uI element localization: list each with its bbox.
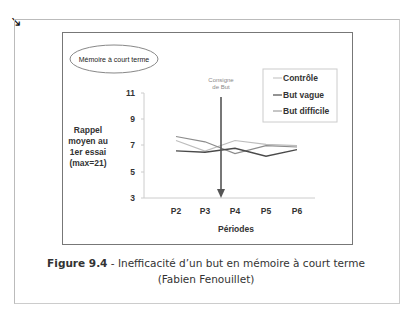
figure-caption: Figure 9.4 - Inefficacité d’un but en mé…	[14, 255, 398, 287]
legend-item-but-vague: But vague	[283, 90, 324, 100]
line-chart: Mémoire à court terme Consigne de But Co…	[63, 33, 352, 244]
svg-text:1er essai: 1er essai	[70, 147, 106, 157]
y-ticks: 11 9 7 5 3	[126, 88, 144, 203]
svg-text:P5: P5	[261, 206, 272, 216]
svg-text:(max=21): (max=21)	[69, 158, 106, 168]
annotation-line2: de But	[212, 84, 230, 90]
legend: Contrôle But vague But difficile	[263, 69, 337, 122]
svg-text:3: 3	[130, 193, 135, 203]
svg-text:11: 11	[126, 88, 135, 98]
chart-title: Mémoire à court terme	[79, 56, 150, 63]
svg-text:P2: P2	[171, 206, 182, 216]
series-but-vague	[176, 148, 297, 156]
svg-text:5: 5	[130, 167, 135, 177]
x-axis-label: Périodes	[218, 224, 254, 234]
caption-label: Figure 9.4	[47, 257, 107, 269]
x-ticks: P2 P3 P4 P5 P6	[171, 206, 303, 216]
y-axis-label: Rappel moyen au 1er essai (max=21)	[68, 125, 108, 168]
legend-item-controle: Contrôle	[283, 73, 318, 83]
svg-text:P4: P4	[230, 206, 241, 216]
svg-text:P6: P6	[292, 206, 303, 216]
caption-author: (Fabien Fenouillet)	[14, 271, 398, 287]
annotation-line1: Consigne	[208, 77, 234, 83]
svg-text:moyen au: moyen au	[68, 136, 108, 146]
svg-text:Rappel: Rappel	[74, 125, 102, 135]
caption-text: - Inefficacité d’un but en mémoire à cou…	[107, 257, 364, 269]
svg-text:9: 9	[130, 114, 135, 124]
svg-text:P3: P3	[200, 206, 211, 216]
svg-text:7: 7	[130, 140, 135, 150]
chart-container: Mémoire à court terme Consigne de But Co…	[62, 32, 353, 245]
legend-item-but-difficile: But difficile	[283, 106, 330, 116]
